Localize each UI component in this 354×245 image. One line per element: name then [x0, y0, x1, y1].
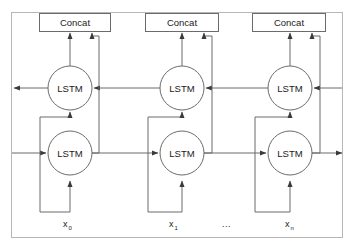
- lstm-cell-label: LSTM: [277, 83, 302, 94]
- forward-lstm-cell-1: LSTM: [160, 131, 204, 175]
- input-label-0: x 0: [63, 219, 73, 231]
- input-label-base: x: [285, 219, 290, 229]
- lstm-cell-label: LSTM: [169, 83, 194, 94]
- concat-box-label: Concat: [274, 17, 304, 28]
- backward-lstm-cell-0: LSTM: [48, 66, 92, 110]
- lstm-cell-label: LSTM: [277, 148, 302, 159]
- forward-to-concat-n: [312, 33, 320, 153]
- lstm-cell-label: LSTM: [169, 148, 194, 159]
- timestep-1-wiring: [148, 33, 212, 212]
- bilstm-diagram: Concat Concat Concat LSTM LSTM LSTM LSTM: [0, 0, 354, 245]
- concat-box-group-n: Concat: [253, 14, 326, 32]
- concat-box-group-0: Concat: [40, 14, 111, 32]
- forward-to-concat-1: [204, 33, 212, 153]
- concat-box-group-1: Concat: [146, 14, 219, 32]
- forward-to-concat-0: [92, 33, 99, 153]
- concat-box-label: Concat: [167, 17, 197, 28]
- concat-box-label: Concat: [60, 17, 90, 28]
- lstm-cell-label: LSTM: [57, 148, 82, 159]
- forward-lstm-cell-0: LSTM: [48, 131, 92, 175]
- backward-lstm-cell-1: LSTM: [160, 66, 204, 110]
- input-label-base: x: [63, 219, 68, 229]
- backward-lstm-cell-n: LSTM: [268, 66, 312, 110]
- input-label-subscript: 0: [69, 225, 73, 231]
- input-label-base: x: [169, 219, 174, 229]
- input-label-1: x 1: [169, 219, 179, 231]
- input-label-subscript: n: [291, 225, 294, 231]
- timestep-0-wiring: [40, 33, 99, 212]
- forward-lstm-cell-n: LSTM: [268, 131, 312, 175]
- diagram-canvas: Concat Concat Concat LSTM LSTM LSTM LSTM: [0, 0, 354, 245]
- diagram-frame: [12, 13, 343, 238]
- input-label-n: x n: [285, 219, 294, 231]
- lstm-cell-label: LSTM: [57, 83, 82, 94]
- sequence-ellipsis: ...: [222, 219, 231, 229]
- input-label-subscript: 1: [175, 225, 179, 231]
- timestep-n-wiring: [255, 33, 320, 212]
